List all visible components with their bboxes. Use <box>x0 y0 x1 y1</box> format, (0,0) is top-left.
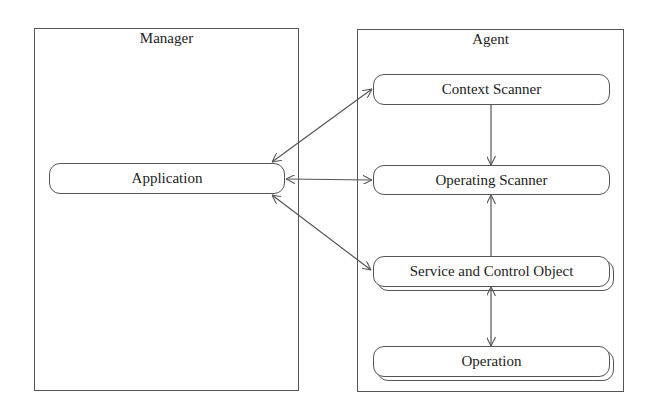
operating-scanner-node: Operating Scanner <box>373 165 610 195</box>
agent-title: Agent <box>358 31 623 48</box>
application-node: Application <box>49 163 285 194</box>
application-label: Application <box>132 170 203 187</box>
operation-node: Operation <box>373 346 610 377</box>
operation-label: Operation <box>462 353 522 370</box>
service-control-label: Service and Control Object <box>410 263 574 280</box>
operating-scanner-label: Operating Scanner <box>435 172 547 189</box>
service-control-node: Service and Control Object <box>373 256 610 287</box>
manager-frame: Manager <box>34 28 299 391</box>
manager-title: Manager <box>35 30 298 47</box>
context-scanner-label: Context Scanner <box>442 81 542 98</box>
context-scanner-node: Context Scanner <box>373 74 610 105</box>
